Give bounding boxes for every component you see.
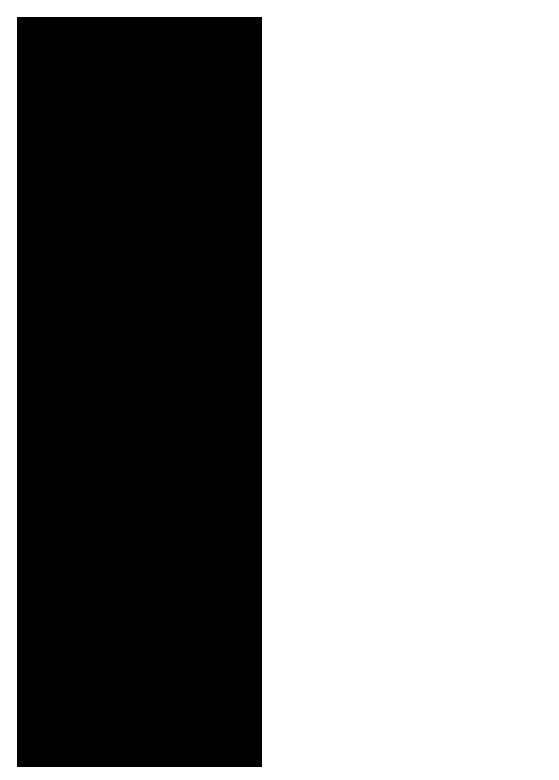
star-chart: [0, 0, 559, 780]
